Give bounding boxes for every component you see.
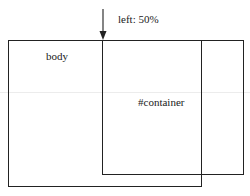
container-label: #container — [138, 96, 184, 108]
body-label: body — [46, 50, 68, 62]
down-arrow-icon — [0, 0, 250, 196]
diagram-canvas: left: 50% body #container — [0, 0, 250, 196]
left-offset-annotation: left: 50% — [118, 13, 159, 25]
